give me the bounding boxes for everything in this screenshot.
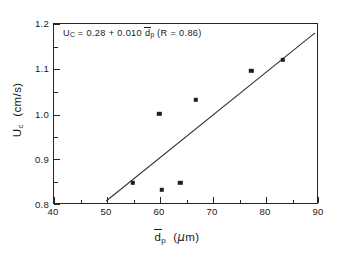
x-tick-label: 40 (47, 206, 58, 217)
x-axis-d-subscript: p (161, 236, 166, 245)
y-axis-title: Uc (cm/s) (11, 30, 25, 190)
x-tick-label: 50 (100, 206, 111, 217)
x-tick-label: 70 (206, 206, 217, 217)
equation-r-equals: = (170, 28, 176, 38)
y-major-tick (54, 159, 60, 160)
equation-plus: + (109, 28, 115, 38)
scatter-plot-figure: UC = 0.28 + 0.010 dp (R = 0.86) 40 50 60… (0, 0, 354, 257)
y-minor-tick (54, 137, 58, 138)
x-major-tick (266, 197, 267, 203)
y-axis-u-symbol: U (11, 128, 23, 137)
data-point (157, 111, 161, 115)
x-tick-label: 80 (259, 206, 270, 217)
x-tick-label: 90 (312, 206, 323, 217)
regression-equation-annotation: UC = 0.28 + 0.010 dp (R = 0.86) (63, 28, 202, 38)
y-tick-label: 0.9 (22, 153, 49, 164)
y-tick-label: 1.2 (22, 18, 49, 29)
x-major-tick (160, 197, 161, 203)
x-minor-tick (81, 200, 82, 204)
equation-equals: = (78, 28, 84, 38)
y-minor-tick (54, 92, 58, 93)
y-major-tick (54, 204, 60, 205)
equation-slope: 0.010 (117, 28, 142, 38)
data-point (178, 181, 182, 185)
equation-r-value: 0.86) (179, 28, 202, 38)
equation-u-symbol: U (63, 28, 70, 38)
data-point (249, 69, 253, 73)
x-axis-unit-m: m) (185, 231, 199, 243)
plot-area (53, 23, 318, 204)
data-point (194, 98, 198, 102)
x-minor-tick (134, 200, 135, 204)
x-major-tick (318, 197, 319, 203)
y-axis-units: (cm/s) (11, 82, 23, 116)
x-axis-d-symbol: d (154, 231, 161, 243)
x-tick-label: 60 (153, 206, 164, 217)
equation-intercept: 0.28 (86, 28, 105, 38)
equation-r-open: (R (157, 28, 167, 38)
x-minor-tick (187, 200, 188, 204)
y-tick-label: 1.1 (22, 63, 49, 74)
y-major-tick (54, 115, 60, 116)
y-minor-tick (54, 182, 58, 183)
y-axis-u-subscript: c (16, 124, 25, 128)
x-minor-tick (240, 200, 241, 204)
data-point (160, 187, 164, 191)
y-minor-tick (54, 47, 58, 48)
x-minor-tick (293, 200, 294, 204)
x-axis-title: dp (μm) (0, 230, 354, 245)
y-major-tick (54, 24, 60, 25)
y-tick-label: 0.8 (22, 199, 49, 210)
equation-u-subscript: C (70, 31, 75, 38)
equation-d-subscript: p (150, 31, 154, 38)
y-tick-label: 1.0 (22, 108, 49, 119)
y-major-tick (54, 69, 60, 70)
data-point (281, 58, 285, 62)
x-major-tick (213, 197, 214, 203)
data-point-layer (54, 24, 317, 203)
x-major-tick (107, 197, 108, 203)
x-major-tick (54, 197, 55, 203)
data-point (131, 181, 135, 185)
equation-d-symbol: d (145, 28, 150, 38)
